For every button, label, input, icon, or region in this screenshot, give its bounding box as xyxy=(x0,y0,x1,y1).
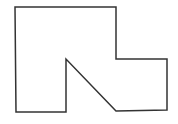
diagram-canvas xyxy=(0,0,178,124)
shape-svg xyxy=(0,0,178,124)
polygon-shape xyxy=(15,7,167,112)
